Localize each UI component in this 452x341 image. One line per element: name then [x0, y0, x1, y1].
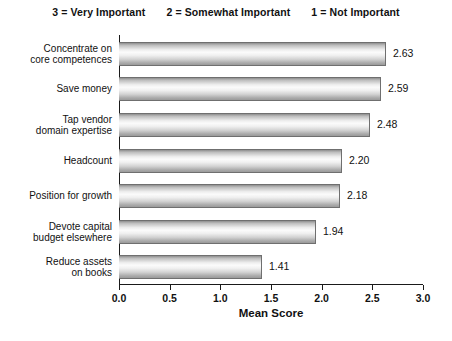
bar-row[interactable]: 2.63 [119, 42, 423, 66]
x-axis-tick-label: 1.5 [251, 292, 291, 304]
bar-value-label: 1.94 [323, 225, 343, 237]
x-axis-title: Mean Score [119, 307, 423, 319]
category-label: Tap vendordomain expertise [0, 114, 112, 137]
bar-row[interactable]: 1.94 [119, 220, 423, 244]
category-label-line: Position for growth [0, 190, 112, 202]
category-label: Devote capitalbudget elsewhere [0, 221, 112, 244]
category-label: Reduce assetson books [0, 256, 112, 279]
x-axis-tick-label: 0.0 [99, 292, 139, 304]
bar[interactable] [119, 220, 316, 244]
x-axis-tick-label: 0.5 [150, 292, 190, 304]
legend-entry-3: 3 = Very Important [52, 6, 145, 18]
category-label: Concentrate oncore competences [0, 43, 112, 66]
bar-row[interactable]: 2.20 [119, 149, 423, 173]
bar-value-label: 2.20 [349, 154, 369, 166]
x-axis-tick [271, 285, 272, 290]
x-axis-tick [220, 285, 221, 290]
x-axis-tick-label: 2.5 [352, 292, 392, 304]
category-label-line: Save money [0, 83, 112, 95]
category-label-line: Headcount [0, 155, 112, 167]
x-axis-tick [423, 285, 424, 290]
bar-value-label: 2.18 [347, 189, 367, 201]
bar[interactable] [119, 77, 381, 101]
x-axis-tick [372, 285, 373, 290]
category-label: Position for growth [0, 190, 112, 202]
category-label-line: Concentrate on [0, 43, 112, 55]
bar[interactable] [119, 255, 262, 279]
x-axis-tick [119, 285, 120, 290]
bar-value-label: 2.59 [388, 82, 408, 94]
legend-entry-2: 2 = Somewhat Important [166, 6, 290, 18]
x-axis-tick [170, 285, 171, 290]
bar[interactable] [119, 42, 386, 66]
x-axis-tick [322, 285, 323, 290]
bar-chart-plot-area: 2.632.592.482.202.181.941.41 0.00.51.01.… [119, 35, 423, 284]
category-label-line: budget elsewhere [0, 232, 112, 244]
bar-value-label: 2.48 [377, 118, 397, 130]
bar[interactable] [119, 113, 370, 137]
bar-row[interactable]: 2.18 [119, 184, 423, 208]
category-label-line: domain expertise [0, 125, 112, 137]
bar-row[interactable]: 2.59 [119, 77, 423, 101]
legend-entry-1: 1 = Not Important [311, 6, 399, 18]
category-label: Headcount [0, 155, 112, 167]
bar-value-label: 1.41 [269, 260, 289, 272]
rating-scale-legend: 3 = Very Important 2 = Somewhat Importan… [0, 6, 452, 18]
x-axis-tick-label: 1.0 [200, 292, 240, 304]
bar-value-label: 2.63 [393, 47, 413, 59]
bar-row[interactable]: 1.41 [119, 255, 423, 279]
bar-row[interactable]: 2.48 [119, 113, 423, 137]
category-label: Save money [0, 83, 112, 95]
bar[interactable] [119, 149, 342, 173]
x-axis-tick-label: 2.0 [302, 292, 342, 304]
category-label-line: Reduce assets [0, 256, 112, 268]
category-label-line: Tap vendor [0, 114, 112, 126]
bar[interactable] [119, 184, 340, 208]
x-axis-tick-label: 3.0 [403, 292, 443, 304]
category-label-line: Devote capital [0, 221, 112, 233]
category-label-line: on books [0, 267, 112, 279]
category-label-line: core competences [0, 54, 112, 66]
